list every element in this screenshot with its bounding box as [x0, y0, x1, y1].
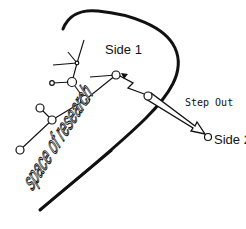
node — [16, 146, 24, 154]
node — [36, 104, 44, 112]
node — [75, 61, 79, 65]
node — [112, 71, 120, 79]
step-out-label: Step Out — [185, 97, 233, 108]
node — [144, 92, 152, 100]
space-of-research-label: space of research — [20, 76, 96, 197]
side-2-label: Side 2 — [214, 132, 246, 147]
node — [50, 81, 55, 86]
zigzag-arrowhead-icon — [121, 73, 128, 79]
research-diagram: Side 1 Step Out Side 2 space of research — [0, 0, 246, 229]
zigzag-connector — [118, 75, 147, 95]
side-1-label: Side 1 — [105, 42, 142, 57]
node — [205, 134, 212, 141]
